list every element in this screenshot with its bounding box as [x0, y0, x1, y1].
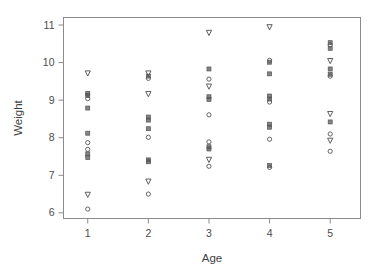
- data-point-square: [328, 120, 332, 124]
- data-point-square: [268, 60, 272, 64]
- data-point-triangle-down: [328, 58, 333, 63]
- plot-frame: [64, 18, 361, 219]
- data-point-layer: [85, 25, 333, 212]
- data-point-triangle-down: [206, 84, 211, 89]
- data-point-square: [207, 147, 211, 151]
- y-tick-label: 8: [49, 131, 55, 143]
- x-tick-label: 5: [327, 227, 333, 239]
- data-point-circle: [86, 141, 90, 145]
- y-axis-title: Weight: [12, 99, 24, 135]
- data-point-triangle-down: [206, 157, 211, 162]
- y-tick-label: 11: [44, 19, 55, 31]
- data-point-square: [146, 160, 150, 164]
- data-point-triangle-down: [146, 92, 151, 97]
- scatter-plot-figure: 67891011 12345 Weight Age: [0, 0, 381, 276]
- y-axis-ticks: [59, 25, 64, 213]
- x-axis-title: Age: [202, 252, 222, 264]
- data-point-square: [86, 152, 90, 156]
- data-point-circle: [328, 132, 332, 136]
- data-point-triangle-down: [85, 192, 90, 197]
- data-point-square: [86, 131, 90, 135]
- data-point-circle: [207, 164, 211, 168]
- data-point-square: [207, 67, 211, 71]
- y-tick-label: 7: [49, 169, 55, 181]
- x-axis-tick-labels: 12345: [85, 227, 333, 239]
- data-point-square: [268, 125, 272, 129]
- data-point-triangle-down: [328, 111, 333, 116]
- data-point-circle: [207, 77, 211, 81]
- data-point-circle: [267, 137, 271, 141]
- data-point-square: [146, 118, 150, 122]
- data-point-square: [328, 46, 332, 50]
- y-tick-label: 9: [49, 94, 55, 106]
- data-point-circle: [328, 149, 332, 153]
- x-tick-label: 4: [267, 227, 273, 239]
- data-point-triangle-down: [206, 30, 211, 35]
- data-point-square: [146, 127, 150, 131]
- data-point-circle: [207, 113, 211, 117]
- data-point-triangle-down: [85, 71, 90, 76]
- y-axis-tick-labels: 67891011: [43, 19, 55, 219]
- x-tick-label: 2: [145, 227, 151, 239]
- data-point-circle: [86, 207, 90, 211]
- data-point-triangle-down: [328, 138, 333, 143]
- plot-canvas: 67891011 12345 Weight Age: [0, 0, 381, 276]
- x-axis-ticks: [88, 219, 330, 224]
- data-point-circle: [207, 140, 211, 144]
- y-tick-label: 6: [49, 206, 55, 218]
- data-point-circle: [146, 192, 150, 196]
- data-point-triangle-down: [267, 25, 272, 30]
- data-point-square: [86, 156, 90, 160]
- data-point-circle: [146, 135, 150, 139]
- x-tick-label: 1: [85, 227, 91, 239]
- data-point-square: [207, 97, 211, 101]
- data-point-square: [328, 67, 332, 71]
- data-point-square: [268, 72, 272, 76]
- data-point-square: [86, 106, 90, 110]
- data-point-triangle-down: [146, 179, 151, 184]
- data-point-circle: [86, 147, 90, 151]
- x-tick-label: 3: [206, 227, 212, 239]
- y-tick-label: 10: [43, 56, 55, 68]
